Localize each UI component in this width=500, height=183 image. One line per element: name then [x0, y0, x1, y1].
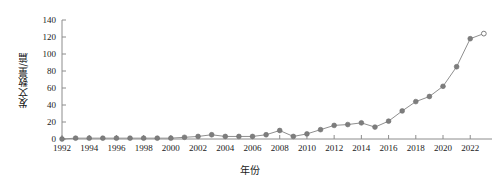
data-point-marker	[237, 134, 242, 139]
y-tick-label: 140	[43, 15, 57, 25]
data-point-marker	[373, 125, 378, 130]
data-point-marker	[196, 134, 201, 139]
data-series-line	[62, 34, 484, 139]
data-point-marker	[332, 123, 337, 128]
x-tick-label: 2002	[189, 143, 207, 153]
x-tick-label: 2022	[461, 143, 479, 153]
data-point-marker	[264, 132, 269, 137]
x-tick-label: 2018	[407, 143, 426, 153]
x-tick-label: 1998	[135, 143, 154, 153]
data-point-marker	[73, 136, 78, 141]
data-point-marker	[413, 99, 418, 104]
data-point-marker	[277, 128, 282, 133]
data-point-marker-open	[481, 31, 486, 36]
data-point-marker	[100, 136, 105, 141]
data-point-marker	[386, 119, 391, 124]
y-tick-label: 100	[43, 49, 57, 59]
x-tick-label: 2004	[216, 143, 235, 153]
data-point-marker	[318, 127, 323, 132]
x-tick-label: 2010	[298, 143, 317, 153]
data-point-marker	[305, 132, 310, 137]
data-point-marker	[468, 36, 473, 41]
publication-count-line-chart: 发文数量/篇 020406080100120140 19921994199619…	[0, 0, 500, 183]
data-point-markers	[60, 31, 487, 141]
data-point-marker	[223, 134, 228, 139]
y-tick-label: 40	[47, 100, 57, 110]
data-point-marker	[400, 109, 405, 114]
data-point-marker	[128, 136, 133, 141]
x-tick-label: 1992	[53, 143, 71, 153]
x-tick-label: 2008	[271, 143, 290, 153]
y-tick-label: 80	[47, 66, 57, 76]
data-point-marker	[141, 136, 146, 141]
x-tick-label: 1996	[107, 143, 126, 153]
y-tick-label: 20	[47, 117, 57, 127]
data-point-marker	[441, 84, 446, 89]
data-point-marker	[155, 136, 160, 141]
x-tick-label: 2020	[434, 143, 453, 153]
data-point-marker	[87, 136, 92, 141]
data-point-marker	[291, 134, 296, 139]
data-point-marker	[250, 134, 255, 139]
data-point-marker	[345, 122, 350, 127]
y-tick-label: 120	[43, 32, 57, 42]
data-point-marker	[182, 135, 187, 140]
x-tick-label: 2016	[380, 143, 399, 153]
data-point-marker	[114, 136, 119, 141]
data-point-marker	[60, 137, 65, 142]
x-tick-label: 2014	[352, 143, 371, 153]
x-tick-label: 2006	[244, 143, 263, 153]
data-point-marker	[168, 136, 173, 141]
chart-plot-area: 020406080100120140 199219941996199820002…	[0, 0, 500, 183]
x-tick-label: 2000	[162, 143, 181, 153]
x-tick-label: 2012	[325, 143, 343, 153]
x-tick-label: 1994	[80, 143, 99, 153]
data-point-marker	[454, 64, 459, 69]
x-axis-label: 年份	[0, 162, 500, 177]
data-point-marker	[427, 94, 432, 99]
data-point-marker	[359, 120, 364, 125]
data-point-marker	[209, 132, 214, 137]
y-tick-label: 60	[47, 83, 57, 93]
